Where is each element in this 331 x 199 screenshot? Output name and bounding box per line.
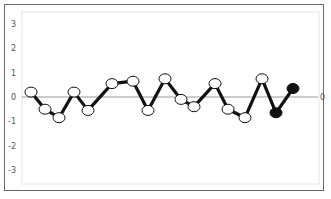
data-point-marker: [127, 76, 139, 86]
y-tick-label: 2: [11, 44, 16, 53]
plot-area: [22, 12, 319, 184]
data-point-marker: [68, 87, 80, 97]
data-point-marker: [209, 79, 221, 89]
data-point-marker: [82, 105, 94, 115]
y-tick-label: -2: [8, 142, 16, 151]
line-chart: 3210-1-2-3 0: [0, 0, 331, 199]
y-tick-label: -1: [8, 117, 16, 126]
y-tick-label: 0: [11, 93, 16, 102]
data-point-marker: [239, 113, 251, 123]
data-point-marker: [270, 108, 282, 118]
data-point-marker: [287, 84, 299, 94]
y-tick-label: 3: [11, 20, 16, 29]
data-point-marker: [188, 102, 200, 112]
data-point-marker: [39, 104, 51, 114]
data-point-marker: [106, 79, 118, 89]
data-point-marker: [175, 94, 187, 104]
data-point-marker: [256, 74, 268, 84]
data-point-marker: [25, 87, 37, 97]
data-point-marker: [53, 113, 65, 123]
y-tick-label: 1: [11, 69, 16, 78]
y-axis-ticks: 3210-1-2-3: [8, 20, 16, 175]
data-line: [31, 79, 293, 118]
data-markers: [25, 74, 299, 123]
y-tick-label: -3: [8, 166, 16, 175]
data-point-marker: [222, 104, 234, 114]
data-point-marker: [159, 74, 171, 84]
data-point-marker: [142, 105, 154, 115]
right-zero-label: 0: [320, 93, 325, 102]
